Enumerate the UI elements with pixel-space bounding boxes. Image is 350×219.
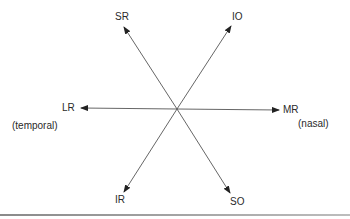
so-arrow: [177, 109, 230, 193]
sr-arrow: [124, 27, 177, 109]
bottom-divider: [0, 214, 350, 216]
ir-arrow: [124, 109, 177, 192]
io-arrow: [177, 26, 231, 109]
eye-muscle-diagram: SR IO LR MR IR SO (temporal) (nasal): [0, 0, 350, 219]
mr-arrow: [177, 109, 279, 110]
label-mr: MR: [283, 105, 299, 115]
label-ir: IR: [115, 195, 125, 205]
label-sr: SR: [115, 12, 129, 22]
lr-arrow: [81, 108, 177, 109]
label-nasal: (nasal): [298, 119, 329, 129]
label-io: IO: [232, 12, 243, 22]
label-temporal: (temporal): [12, 121, 58, 131]
label-so: SO: [230, 197, 244, 207]
label-lr: LR: [62, 103, 75, 113]
